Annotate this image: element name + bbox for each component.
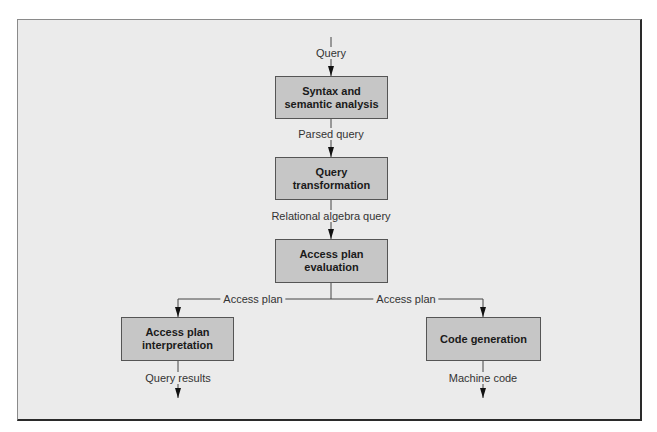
edge-label-relational-algebra-query: Relational algebra query (268, 210, 393, 222)
node-access-plan-evaluation: Access plan evaluation (275, 239, 388, 283)
node-access-plan-interpretation: Access plan interpretation (121, 317, 234, 361)
edge-label-machine-code: Machine code (446, 372, 521, 384)
edge-label-query: Query (313, 47, 349, 59)
node-syntax-semantic-analysis: Syntax and semantic analysis (275, 76, 388, 119)
edge-label-access-plan-left: Access plan (220, 293, 285, 305)
node-query-transformation: Query transformation (275, 157, 388, 200)
node-label: Access plan evaluation (282, 248, 381, 274)
node-code-generation: Code generation (426, 317, 541, 361)
edge-label-parsed-query: Parsed query (295, 128, 366, 140)
node-label: Syntax and semantic analysis (282, 85, 381, 111)
node-label: Query transformation (282, 166, 381, 192)
edge-label-access-plan-right: Access plan (373, 293, 438, 305)
edge-label-query-results: Query results (142, 372, 213, 384)
node-label: Code generation (440, 333, 527, 346)
node-label: Access plan interpretation (128, 326, 227, 352)
